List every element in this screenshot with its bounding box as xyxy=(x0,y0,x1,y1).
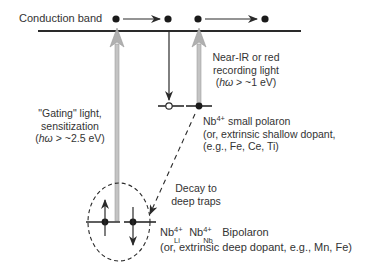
gating-line-1: "Gating" light, xyxy=(30,107,110,120)
small-polaron-line-3: (e.g., Fe, Ce, Ti) xyxy=(203,140,335,153)
recording-line-3: (hω > ~1 eV) xyxy=(206,76,286,89)
empty-state-circle xyxy=(166,103,172,109)
bipolaron-label: Nb4+Li Nb4+Nb Bipolaron (or, extrinsic d… xyxy=(160,226,352,253)
electron-dot xyxy=(164,15,171,22)
decay-label: Decay to deep traps xyxy=(167,182,225,207)
small-polaron-label: Nb4+ small polaron (or, extrinsic shallo… xyxy=(203,115,335,153)
gating-line-3: (hω > ~2.5 eV) xyxy=(30,132,110,145)
gating-light-label: "Gating" light, sensitization (hω > ~2.5… xyxy=(30,107,110,145)
h-omega-symbol: hω xyxy=(39,132,53,144)
gating-line-2: sensitization xyxy=(30,120,110,133)
recording-light-arrow xyxy=(192,28,206,106)
bipolaron-line-2: (or, extrinsic deep dopant, e.g., Mn, Fe… xyxy=(160,241,352,254)
h-omega-symbol: hω xyxy=(219,76,233,88)
gating-light-arrow xyxy=(110,28,124,221)
small-polaron-line-2: (or, extrinsic shallow dopant, xyxy=(203,128,335,141)
small-polaron-dot xyxy=(196,103,203,110)
bipolaron-title: Nb4+Li Nb4+Nb Bipolaron xyxy=(160,226,352,239)
electron-dot xyxy=(261,15,268,22)
electron-dot xyxy=(112,15,119,22)
recording-line-1: Near-IR or red xyxy=(206,51,286,64)
recording-line-2: recording light xyxy=(206,64,286,77)
electron-dot xyxy=(194,15,201,22)
small-polaron-title: Nb4+ small polaron xyxy=(203,115,335,128)
recording-light-label: Near-IR or red recording light (hω > ~1 … xyxy=(206,51,286,89)
conduction-band-label: Conduction band xyxy=(19,12,102,25)
